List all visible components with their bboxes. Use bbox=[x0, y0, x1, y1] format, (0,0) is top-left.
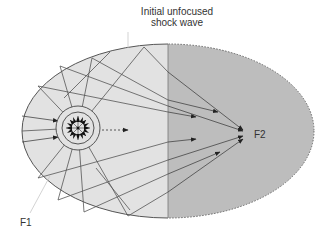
focus-f1-label: F1 bbox=[20, 217, 32, 228]
initial-shock-wave-label: Initial unfocused shock wave bbox=[122, 6, 232, 28]
label-line-2: shock wave bbox=[122, 17, 232, 28]
ellipsoid-reflector-diagram bbox=[0, 0, 332, 240]
focus-f2-label: F2 bbox=[254, 129, 266, 140]
shock-wave-source bbox=[56, 106, 100, 150]
label-line-1: Initial unfocused bbox=[122, 6, 232, 17]
annotation-leader-f1 bbox=[30, 176, 50, 213]
